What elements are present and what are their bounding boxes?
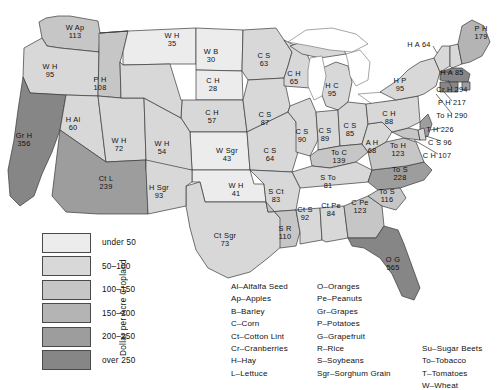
state-utah[interactable] (98, 96, 146, 162)
crop-key-item: B–Barley (231, 306, 317, 318)
state-new-york[interactable] (380, 58, 440, 100)
leader-vermont (433, 46, 437, 53)
crop-key-item: To–Tobacco (422, 355, 501, 367)
leader-delaware (426, 136, 441, 141)
state-south-dakota[interactable] (196, 70, 243, 100)
crop-key-item: P–Potatoes (317, 318, 422, 330)
legend-swatch (42, 233, 91, 253)
crop-abbreviation-key: Al–Alfalfa SeedAp–ApplesB–BarleyC–CornCt… (231, 281, 501, 390)
legend-axis-label: Dollar per Acre Cropland (119, 248, 128, 368)
crop-key-item: R–Rice (317, 343, 422, 355)
crop-key-item: Gr–Grapes (317, 306, 422, 318)
state-connecticut[interactable] (440, 82, 458, 92)
state-alabama[interactable] (320, 206, 348, 242)
state-nebraska[interactable] (181, 100, 247, 132)
crop-key-item: G–Grapefruit (317, 331, 422, 343)
crop-key-item: Al–Alfalfa Seed (231, 281, 317, 293)
legend-label: under 50 (102, 238, 136, 247)
crop-key-item: Pe–Peanuts (317, 293, 422, 305)
state-maine[interactable] (458, 20, 490, 64)
state-indiana[interactable] (316, 110, 340, 150)
crop-key-item: T–Tomatoes (422, 368, 501, 380)
crop-key-item: Cr–Cranberries (231, 343, 317, 355)
state-rhode-island[interactable] (462, 82, 470, 90)
crop-key-item: Ap–Apples (231, 293, 317, 305)
legend-swatch (42, 327, 91, 347)
legend-swatch (42, 350, 91, 370)
crop-key-item: W–Wheat (422, 380, 501, 390)
crop-key-item: S–Soybeans (317, 355, 422, 367)
state-north-dakota[interactable] (196, 28, 243, 71)
legend-swatch (42, 303, 91, 323)
crop-key-column-2: O–OrangesPe–PeanutsGr–GrapesP–PotatoesG–… (317, 281, 422, 390)
state-massachusetts[interactable] (440, 68, 470, 82)
crop-key-item: Su–Sugar Beets (422, 343, 501, 355)
leader-connecticut (436, 94, 452, 114)
crop-key-item: Sgr–Sorghum Grain (317, 368, 422, 380)
leader-rhode-island (444, 92, 452, 101)
crop-key-item: C–Corn (231, 318, 317, 330)
crop-key-item: Ct–Cotton Lint (231, 331, 317, 343)
state-minnesota[interactable] (242, 28, 292, 80)
state-mississippi[interactable] (296, 208, 322, 244)
crop-key-item: O–Oranges (317, 281, 422, 293)
legend-swatch (42, 280, 91, 300)
crop-key-item: H–Hay (231, 355, 317, 367)
leader-new-jersey (430, 128, 441, 130)
crop-key-column-3: Su–Sugar BeetsTo–TobaccoT–TomatoesW–Whea… (422, 281, 501, 390)
crop-key-column-1: Al–Alfalfa SeedAp–ApplesB–BarleyC–CornCt… (231, 281, 317, 390)
legend-swatch (42, 256, 91, 276)
crop-key-item: L–Lettuce (231, 368, 317, 380)
cropland-value-map: W Ap113W H95P H108W H35W B30C H28C H57W … (0, 0, 501, 390)
state-kansas[interactable] (190, 132, 250, 170)
